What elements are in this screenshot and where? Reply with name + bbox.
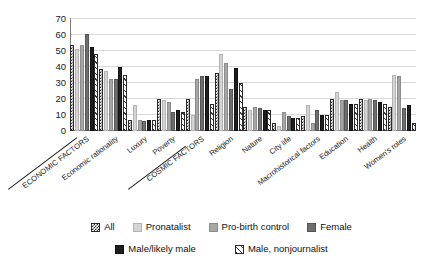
bar	[282, 112, 286, 131]
bar	[195, 79, 199, 131]
bar-group	[99, 18, 128, 131]
legend-label: All	[104, 222, 115, 232]
bar	[138, 120, 142, 131]
bar	[301, 116, 305, 131]
y-tick-label: 50	[55, 46, 66, 56]
x-axis-label: Luxury	[125, 135, 148, 155]
bar-group	[214, 18, 243, 131]
bar	[234, 68, 238, 131]
bar	[397, 76, 401, 131]
bar	[253, 107, 257, 131]
bar-chart: 70 60 50 40 30 20 10 0 ECONOMIC FACTORSE…	[0, 0, 443, 276]
x-axis-label: COSMIC FACTORS	[146, 135, 206, 183]
legend-label: Pro-birth control	[222, 222, 290, 232]
bar	[359, 99, 363, 131]
bar	[378, 102, 382, 131]
legend-label: Pronatalist	[146, 222, 191, 232]
y-tick-label: 40	[55, 62, 66, 72]
bar-group	[243, 18, 272, 131]
bar	[349, 104, 353, 131]
bar-group	[330, 18, 359, 131]
bar	[258, 108, 262, 131]
bar	[277, 126, 281, 131]
bar-group	[157, 18, 186, 131]
bar	[291, 118, 295, 131]
bar	[123, 75, 127, 131]
bar	[306, 105, 310, 131]
bar	[152, 120, 156, 131]
bar	[412, 123, 416, 131]
bar	[200, 76, 204, 131]
x-axis-label: City life	[268, 135, 293, 156]
legend-label: Male, nonjournalist	[248, 244, 328, 254]
y-tick-label: 10	[55, 110, 66, 120]
bar	[373, 100, 377, 131]
y-tick-label: 30	[55, 78, 66, 88]
light-gray-swatch-icon	[133, 223, 142, 232]
bar-group	[70, 18, 99, 131]
bar	[364, 100, 368, 131]
medium-gray-swatch-icon	[209, 223, 218, 232]
legend-row-1: All Pronatalist Pro-birth control Female	[0, 222, 443, 232]
bar	[210, 104, 214, 131]
bar	[147, 120, 151, 131]
bar-group	[128, 18, 157, 131]
bar	[315, 110, 319, 131]
bar	[344, 100, 348, 131]
bar-group	[358, 18, 387, 131]
bar	[267, 110, 271, 131]
bar-group	[272, 18, 301, 131]
checkered-swatch-icon	[91, 223, 100, 232]
legend-label: Female	[320, 222, 352, 232]
bar	[90, 47, 94, 131]
bar-group	[185, 18, 214, 131]
bar	[354, 104, 358, 131]
bar	[162, 100, 166, 131]
legend-item-male-likely-male[interactable]: Male/likely male	[115, 244, 196, 254]
bar	[368, 99, 372, 131]
y-tick-label: 20	[55, 94, 66, 104]
chart-legend: All Pronatalist Pro-birth control Female…	[0, 222, 443, 270]
bar	[229, 89, 233, 131]
bar	[272, 123, 276, 131]
hatched-swatch-icon	[235, 245, 244, 254]
bar	[388, 107, 392, 131]
bar	[176, 110, 180, 131]
bar	[215, 73, 219, 131]
legend-item-pronatalist[interactable]: Pronatalist	[133, 222, 191, 232]
bar	[109, 79, 113, 131]
legend-item-all[interactable]: All	[91, 222, 115, 232]
legend-item-female[interactable]: Female	[307, 222, 352, 232]
bar	[402, 108, 406, 131]
x-axis-label: Religion	[208, 135, 235, 158]
category-group-underline	[8, 137, 77, 190]
bar	[99, 69, 103, 131]
bar	[296, 118, 300, 131]
bar	[224, 63, 228, 131]
bar	[248, 110, 252, 131]
x-axis-label: Education	[318, 135, 350, 162]
bar	[340, 100, 344, 131]
bar	[383, 104, 387, 131]
bar	[118, 67, 122, 131]
bar	[263, 110, 267, 131]
bar	[407, 105, 411, 131]
y-tick-label: 70	[55, 14, 66, 24]
legend-item-pro-birth-control[interactable]: Pro-birth control	[209, 222, 290, 232]
legend-label: Male/likely male	[128, 244, 196, 254]
bar	[186, 99, 190, 131]
x-axis-label: Health	[357, 135, 379, 155]
y-tick-label: 60	[55, 30, 66, 40]
bar	[142, 121, 146, 131]
bar	[157, 99, 161, 131]
black-swatch-icon	[115, 245, 124, 254]
bar	[70, 45, 74, 131]
legend-item-male-nonjournalist[interactable]: Male, nonjournalist	[235, 244, 328, 254]
bar	[85, 34, 89, 131]
legend-row-2: Male/likely male Male, nonjournalist	[0, 244, 443, 254]
plot-area: 70 60 50 40 30 20 10 0	[0, 0, 443, 140]
bar	[219, 54, 223, 131]
bar	[287, 116, 291, 131]
bar-group	[301, 18, 330, 131]
bars-layer	[70, 18, 416, 131]
